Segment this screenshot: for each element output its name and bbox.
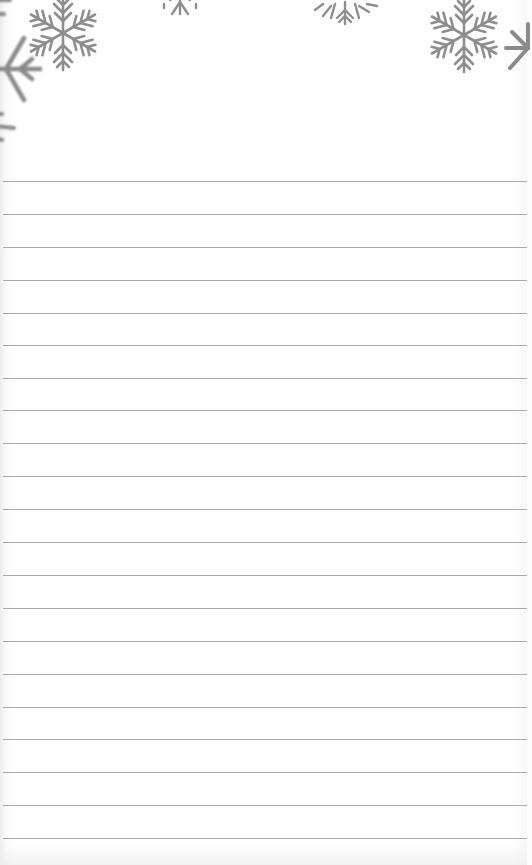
ruled-line bbox=[3, 247, 527, 248]
ruled-line bbox=[3, 641, 527, 642]
ruled-line bbox=[3, 509, 527, 510]
ruled-line bbox=[3, 313, 527, 314]
ruled-line bbox=[3, 181, 527, 182]
ruled-line bbox=[3, 443, 527, 444]
ruled-line bbox=[3, 280, 527, 281]
ruled-line bbox=[3, 476, 527, 477]
ruled-line bbox=[3, 378, 527, 379]
paper-bottom-shadow bbox=[0, 843, 527, 865]
ruled-line bbox=[3, 345, 527, 346]
ruled-line bbox=[3, 214, 527, 215]
ruled-line bbox=[3, 674, 527, 675]
ruled-line bbox=[3, 739, 527, 740]
ruled-line bbox=[3, 707, 527, 708]
ruled-line bbox=[3, 608, 527, 609]
ruled-line bbox=[3, 410, 527, 411]
ruled-line bbox=[3, 772, 527, 773]
ruled-line bbox=[3, 575, 527, 576]
ruled-line bbox=[3, 805, 527, 806]
ruled-line bbox=[3, 838, 527, 839]
ruled-line bbox=[3, 542, 527, 543]
